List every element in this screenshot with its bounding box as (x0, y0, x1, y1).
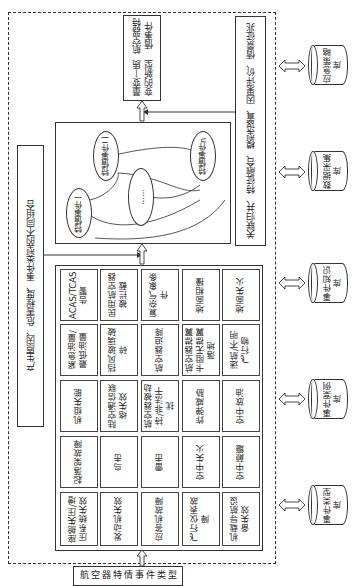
database-label: 事件案例库 (323, 381, 343, 417)
database-event-cases: 事件案例库 (308, 379, 348, 419)
database-label: 事件类型库 (323, 487, 343, 523)
database-emergency-strategy: 应急策略库 (308, 45, 348, 85)
database-event-types: 事件类型库 (308, 485, 348, 525)
database-event-knowledge: 事件知识库 (308, 263, 348, 303)
database-data-collection: 数据采集库 (308, 151, 348, 191)
database-label: 数据采集库 (323, 153, 343, 189)
database-label: 事件知识库 (323, 265, 343, 301)
database-label: 应急策略库 (323, 47, 343, 83)
